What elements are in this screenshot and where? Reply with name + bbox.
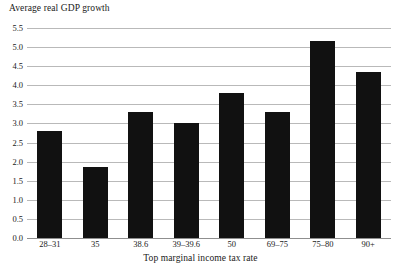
- bar-75-80: [310, 41, 335, 238]
- y-axis-tick-label: 4.5: [12, 62, 23, 71]
- bar-90-: [356, 72, 381, 238]
- x-axis-tick-label: 38.6: [133, 240, 148, 249]
- y-axis-tick-label: 1.5: [12, 176, 23, 185]
- x-axis-tick-label: 90+: [362, 240, 375, 249]
- y-axis-tick-label: 0.5: [12, 215, 23, 224]
- x-axis-tick-label: 69–75: [267, 240, 288, 249]
- y-axis-tick-label: 4.0: [12, 81, 23, 90]
- gridline: [27, 238, 391, 239]
- bar-50: [219, 93, 244, 238]
- y-axis-tick-label: 5.5: [12, 24, 23, 33]
- bar-38-6: [128, 112, 153, 238]
- y-axis-title: Average real GDP growth: [9, 3, 110, 13]
- y-axis-tick-label: 3.5: [12, 100, 23, 109]
- y-axis-tick-label: 3.0: [12, 119, 23, 128]
- plot-area: 0.00.51.01.52.02.53.03.54.04.55.05.5 28–…: [27, 28, 391, 238]
- bar-69-75: [265, 112, 290, 238]
- x-axis-tick-label: 39–39.6: [172, 240, 200, 249]
- bars-group: [27, 28, 391, 238]
- y-axis-tick-label: 2.0: [12, 157, 23, 166]
- x-axis-title: Top marginal income tax rate: [0, 253, 401, 263]
- gdp-growth-bar-chart: Average real GDP growth 0.00.51.01.52.02…: [0, 0, 401, 272]
- y-axis-tick-label: 5.0: [12, 43, 23, 52]
- x-axis-tick-label: 75–80: [312, 240, 333, 249]
- x-axis-tick-label: 35: [91, 240, 100, 249]
- bar-28-31: [37, 131, 62, 238]
- x-axis-tick-label: 50: [228, 240, 237, 249]
- x-axis-tick-label: 28–31: [39, 240, 60, 249]
- y-axis-tick-label: 0.0: [12, 234, 23, 243]
- y-axis-tick-label: 1.0: [12, 196, 23, 205]
- bar-35: [83, 167, 108, 238]
- y-axis-tick-label: 2.5: [12, 138, 23, 147]
- bar-39-39-6: [174, 123, 199, 238]
